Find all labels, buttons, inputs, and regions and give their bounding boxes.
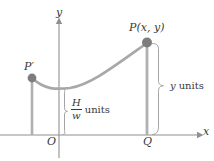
x-axis bbox=[0, 132, 204, 138]
point-p-prime-label: P′ bbox=[24, 61, 34, 72]
point-p-label-sep: , bbox=[147, 21, 154, 34]
x-axis-label: x bbox=[203, 126, 209, 137]
catenary-curve bbox=[32, 43, 147, 89]
point-p-label-base: P( bbox=[129, 21, 141, 34]
point-q-label: Q bbox=[143, 136, 152, 147]
origin-label: O bbox=[47, 136, 56, 147]
fraction-numerator: H bbox=[71, 98, 82, 109]
point-p-label: P(x, y) bbox=[129, 22, 164, 33]
sag-measure-label: H w units bbox=[71, 98, 110, 121]
height-variable: y bbox=[170, 81, 176, 91]
height-units-word: units bbox=[179, 81, 204, 91]
height-measure-label: y units bbox=[170, 81, 204, 91]
sag-brace bbox=[63, 89, 68, 135]
h-over-w-fraction: H w bbox=[71, 98, 82, 121]
height-brace bbox=[152, 44, 164, 135]
point-p-dot bbox=[142, 38, 152, 48]
point-p-label-close: ) bbox=[160, 21, 164, 34]
y-axis-label: y bbox=[56, 7, 62, 18]
point-p-prime-dot bbox=[28, 74, 37, 83]
sag-units-word: units bbox=[85, 105, 110, 115]
fraction-denominator: w bbox=[71, 110, 82, 121]
catenary-diagram: y x O Q P′ P(x, y) H w units y units bbox=[0, 0, 214, 161]
